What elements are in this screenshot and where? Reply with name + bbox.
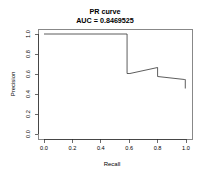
chart-title: PR curve [89,7,120,16]
y-tick-label: 0.0 [25,130,31,138]
x-tick-label: 0.4 [97,145,105,151]
chart-subtitle-auc: AUC = 0.8469525 [76,16,134,25]
x-tick-label: 0.8 [154,145,162,151]
y-tick-label: 0.4 [25,90,31,98]
y-tick-label: 1.0 [25,30,31,38]
x-tick-label: 0.6 [125,145,133,151]
x-axis: 0.0 0.2 0.4 0.6 0.8 1.0 Recall [40,139,190,167]
y-tick-label: 0.6 [25,70,31,78]
y-tick-label: 0.2 [25,110,31,118]
chart-canvas: PR curve AUC = 0.8469525 0.0 0.2 0.4 0.6… [0,0,210,179]
x-tick-label: 1.0 [182,145,190,151]
y-axis-title: Precision [10,72,16,97]
y-axis: 0.0 0.2 0.4 0.6 0.8 1.0 Precision [10,30,38,138]
pr-curve-plot: PR curve AUC = 0.8469525 0.0 0.2 0.4 0.6… [0,0,210,179]
x-tick-label: 0.2 [69,145,77,151]
plot-panel-background [38,29,192,139]
x-tick-label: 0.0 [40,145,48,151]
y-tick-label: 0.8 [25,50,31,58]
x-axis-title: Recall [104,161,121,167]
